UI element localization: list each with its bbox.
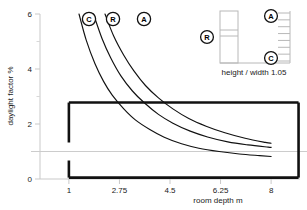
inset-left-wall — [220, 11, 238, 63]
y-tick-label: 4 — [28, 65, 33, 74]
x-tick-label: 8 — [269, 186, 274, 195]
inset-marker-c-label: C — [268, 54, 274, 63]
y-axis-title: daylight factor % — [6, 66, 15, 125]
chart-canvas: 0246 12.754.56.258 daylight factor % roo… — [0, 0, 307, 210]
inset-marker-a-label: A — [268, 12, 274, 21]
y-tick-label: 2 — [28, 120, 33, 129]
curve-marker-c-label: C — [86, 15, 92, 24]
curve-marker-a: A — [137, 12, 150, 25]
inset-marker-r-label: R — [204, 33, 210, 42]
inset-marker-a: A — [265, 10, 278, 23]
x-tick-label: 2.75 — [112, 186, 128, 195]
curve-marker-r-label: R — [110, 15, 116, 24]
inset-caption: height / width 1.05 — [222, 68, 287, 77]
curve-marker-r: R — [106, 12, 119, 25]
x-tick-label: 6.25 — [213, 186, 229, 195]
x-tick-label: 4.5 — [164, 186, 176, 195]
y-tick-label: 0 — [28, 175, 33, 184]
curve-marker-a-label: A — [141, 15, 147, 24]
x-axis-title: room depth m — [193, 196, 243, 205]
inset-marker-c: C — [265, 52, 278, 65]
daylight-factor-chart: 0246 12.754.56.258 daylight factor % roo… — [0, 0, 307, 210]
inset-marker-r: R — [201, 31, 214, 44]
x-tick-label: 1 — [67, 186, 72, 195]
y-tick-label: 6 — [28, 10, 33, 19]
curve-marker-c: C — [82, 12, 95, 25]
